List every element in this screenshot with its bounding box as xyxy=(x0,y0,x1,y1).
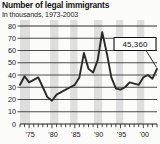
callout-value: 45,360 xyxy=(122,40,148,49)
x-axis-tick-label: '95 xyxy=(117,130,126,139)
y-axis-tick-label: 80 xyxy=(8,22,16,31)
y-axis-tick-label: 10 xyxy=(8,107,16,116)
x-axis-tick-label: '85 xyxy=(71,130,80,139)
y-axis-labels-group: 01020304050607080 xyxy=(8,22,16,129)
vertical-bands-group xyxy=(20,20,144,124)
y-axis-tick-label: 30 xyxy=(8,83,16,92)
chart-page: Number of legal immigrants In thousands,… xyxy=(0,0,160,144)
y-axis-tick-label: 50 xyxy=(8,58,16,67)
x-axis-tick-label: '90 xyxy=(94,130,103,139)
chart-subtitle: In thousands, 1973-2003 xyxy=(2,11,78,19)
page-title: Number of legal immigrants xyxy=(2,1,109,10)
y-axis-tick-label: 0 xyxy=(12,120,16,129)
x-axis-tick-label: '00 xyxy=(140,130,149,139)
x-axis-labels-group: '75'80'85'90'95'00 xyxy=(25,130,149,139)
y-axis-tick-label: 60 xyxy=(8,46,16,55)
y-axis-tick-label: 20 xyxy=(8,95,16,104)
x-axis-group xyxy=(20,124,157,128)
x-axis-tick-label: '80 xyxy=(48,130,57,139)
chart-plot-area: 01020304050607080 '75'80'85'90'95'00 45,… xyxy=(0,19,160,144)
y-axis-tick-label: 70 xyxy=(8,34,16,43)
y-axis-tick-label: 40 xyxy=(8,71,16,80)
x-axis-tick-label: '75 xyxy=(25,130,34,139)
callout-leader-line xyxy=(146,50,157,67)
line-chart: 01020304050607080 '75'80'85'90'95'00 45,… xyxy=(0,19,160,144)
